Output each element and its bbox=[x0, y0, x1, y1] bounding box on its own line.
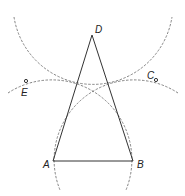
label-c: C bbox=[147, 70, 155, 81]
label-e: E bbox=[21, 87, 28, 98]
label-d: D bbox=[95, 24, 102, 35]
geometry-diagram: D C E A B bbox=[0, 0, 185, 196]
label-b: B bbox=[137, 159, 144, 170]
point-c-marker bbox=[154, 78, 157, 81]
point-e-marker bbox=[24, 79, 27, 82]
segment-ad bbox=[53, 35, 92, 161]
segment-bd bbox=[92, 35, 133, 161]
label-a: A bbox=[42, 159, 50, 170]
